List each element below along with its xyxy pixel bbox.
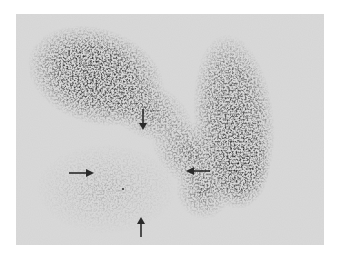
arrow-down-marker <box>138 108 148 132</box>
arrow-right-marker <box>68 168 96 178</box>
arrow-left-marker <box>184 166 212 176</box>
uptake-pattern <box>16 14 324 245</box>
scintigraphy-image <box>16 14 324 245</box>
arrow-right-icon <box>68 168 96 178</box>
arrow-up-marker <box>136 215 146 239</box>
arrow-down-icon <box>138 108 148 132</box>
arrow-left-icon <box>184 166 212 176</box>
arrow-up-icon <box>136 215 146 239</box>
